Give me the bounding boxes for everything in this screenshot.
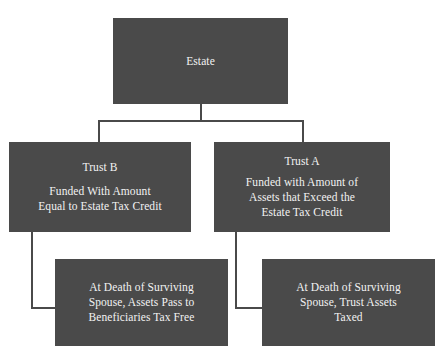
node-trust-a-line-2: Assets that Exceed the [249, 190, 355, 205]
node-trust-a: Trust A Funded with Amount of Assets tha… [214, 142, 390, 232]
node-trust-b-title: Trust B [82, 160, 117, 175]
node-estate: Estate [113, 18, 288, 104]
estate-trust-flow-diagram: Estate Trust B Funded With Amount Equal … [0, 0, 445, 361]
node-trust-a-title: Trust A [284, 154, 319, 169]
node-outcome-b-line-2: Spouse, Assets Pass to [89, 295, 195, 310]
node-outcome-trust-a: At Death of Surviving Spouse, Trust Asse… [262, 259, 435, 346]
connector-trust-b-to-outcome [31, 307, 57, 309]
node-outcome-a-line-2: Spouse, Trust Assets [300, 295, 397, 310]
connector-trust-a-stem [235, 232, 237, 309]
node-outcome-a-line-1: At Death of Surviving [296, 280, 401, 295]
connector-trust-b-stem [31, 232, 33, 309]
connector-bus-to-trust-b [98, 120, 100, 142]
connector-bus-to-trust-a [302, 120, 304, 142]
node-trust-a-line-1: Funded with Amount of [246, 175, 358, 190]
node-outcome-b-line-1: At Death of Surviving [89, 280, 194, 295]
connector-trust-a-to-outcome [235, 307, 264, 309]
node-outcome-trust-b: At Death of Surviving Spouse, Assets Pas… [55, 259, 228, 346]
node-trust-a-line-3: Estate Tax Credit [261, 205, 342, 220]
node-trust-b: Trust B Funded With Amount Equal to Esta… [9, 142, 191, 232]
node-trust-b-line-1: Funded With Amount [49, 184, 150, 199]
node-estate-label: Estate [186, 54, 215, 69]
node-outcome-a-line-3: Taxed [334, 310, 362, 325]
connector-bus-horizontal [98, 120, 304, 122]
node-trust-b-line-2: Equal to Estate Tax Credit [38, 199, 162, 214]
node-outcome-b-line-3: Beneficiaries Tax Free [89, 310, 195, 325]
